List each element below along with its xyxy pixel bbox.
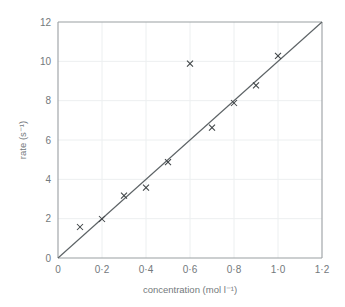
y-axis-tick-labels: 0 2 4 6 8 10 12 — [40, 17, 52, 264]
x-tick-label: 0·2 — [95, 264, 110, 275]
scatter-plot: 0 2 4 6 8 10 12 0 0·2 0·4 0·6 0·8 1·0 1·… — [0, 0, 345, 307]
x-tick-label: 0·8 — [227, 264, 242, 275]
x-axis-title: concentration (mol l⁻¹) — [143, 284, 237, 295]
x-tick-label: 0 — [55, 264, 61, 275]
chart-figure: 0 2 4 6 8 10 12 0 0·2 0·4 0·6 0·8 1·0 1·… — [0, 0, 345, 307]
y-tick-label: 6 — [45, 135, 51, 146]
x-tick-label: 0·6 — [183, 264, 198, 275]
y-tick-label: 10 — [40, 56, 52, 67]
y-tick-label: 0 — [45, 253, 51, 264]
y-tick-label: 12 — [40, 17, 52, 28]
x-tick-label: 0·4 — [139, 264, 154, 275]
y-tick-label: 4 — [45, 174, 51, 185]
y-tick-label: 2 — [45, 213, 51, 224]
x-axis-tick-labels: 0 0·2 0·4 0·6 0·8 1·0 1·2 — [55, 264, 329, 275]
y-tick-label: 8 — [45, 95, 51, 106]
y-axis-title: rate (s⁻¹) — [17, 121, 28, 159]
x-tick-label: 1·2 — [315, 264, 330, 275]
x-tick-label: 1·0 — [271, 264, 286, 275]
